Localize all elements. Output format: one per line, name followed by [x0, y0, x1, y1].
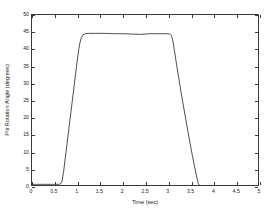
x-tick-mark-top [237, 15, 238, 18]
y-tick-label: 50 [23, 11, 29, 17]
x-tick-mark [260, 182, 261, 185]
x-tick-mark [146, 182, 147, 185]
x-tick-label: 3 [166, 188, 169, 194]
y-tick-mark [32, 84, 35, 85]
y-tick-mark-right [255, 49, 258, 50]
x-tick-mark-top [78, 15, 79, 18]
x-tick-mark-top [100, 15, 101, 18]
y-tick-mark-right [255, 170, 258, 171]
x-tick-mark [78, 182, 79, 185]
y-tick-label: 45 [23, 28, 29, 34]
x-tick-mark [169, 182, 170, 185]
data-line-series [32, 15, 258, 185]
y-tick-mark [32, 67, 35, 68]
x-tick-mark [192, 182, 193, 185]
y-tick-mark-right [255, 84, 258, 85]
y-tick-label: 10 [23, 149, 29, 155]
x-axis-title: Time (sec) [31, 199, 259, 206]
y-tick-mark-right [255, 118, 258, 119]
y-tick-mark [32, 135, 35, 136]
y-tick-label: 35 [23, 63, 29, 69]
x-tick-mark-top [123, 15, 124, 18]
y-tick-label: 30 [23, 80, 29, 86]
x-tick-mark-top [260, 15, 261, 18]
x-tick-label: 2.5 [141, 188, 148, 194]
y-tick-mark [32, 170, 35, 171]
y-tick-mark [32, 32, 35, 33]
x-tick-mark [55, 182, 56, 185]
x-tick-label: 4.5 [233, 188, 240, 194]
y-tick-mark [32, 101, 35, 102]
y-tick-label: 25 [23, 97, 29, 103]
x-tick-mark [123, 182, 124, 185]
x-tick-mark [32, 182, 33, 185]
x-tick-mark-top [55, 15, 56, 18]
y-tick-label: 40 [23, 45, 29, 51]
x-tick-label: 1.5 [96, 188, 103, 194]
series-phi-rotation-angle [32, 33, 258, 185]
x-tick-label: 3.5 [187, 188, 194, 194]
y-tick-mark-right [255, 32, 258, 33]
x-tick-label: 2 [121, 188, 124, 194]
y-tick-label: 5 [26, 166, 29, 172]
x-tick-label: 0.5 [50, 188, 57, 194]
x-tick-mark [214, 182, 215, 185]
x-tick-mark-top [214, 15, 215, 18]
x-tick-mark-top [169, 15, 170, 18]
y-tick-mark-right [255, 67, 258, 68]
x-tick-label: 0 [30, 188, 33, 194]
y-tick-mark [32, 118, 35, 119]
x-tick-label: 1 [75, 188, 78, 194]
x-tick-mark-top [192, 15, 193, 18]
y-tick-label: 20 [23, 114, 29, 120]
x-tick-mark-top [146, 15, 147, 18]
x-tick-label: 5 [258, 188, 261, 194]
y-tick-mark [32, 49, 35, 50]
x-tick-mark [100, 182, 101, 185]
y-tick-mark-right [255, 101, 258, 102]
y-axis-title: Phi Rotation Angle (degrees) [4, 64, 11, 136]
y-tick-mark-right [255, 15, 258, 16]
y-tick-mark-right [255, 135, 258, 136]
y-tick-mark [32, 15, 35, 16]
y-tick-mark-right [255, 153, 258, 154]
y-tick-label: 15 [23, 131, 29, 137]
plot-area [31, 14, 259, 186]
figure-canvas: Phi Rotation Angle (degrees) 05101520253… [0, 0, 276, 222]
y-tick-mark [32, 153, 35, 154]
x-tick-label: 4 [212, 188, 215, 194]
x-tick-mark [237, 182, 238, 185]
y-axis-title-container: Phi Rotation Angle (degrees) [0, 14, 14, 186]
